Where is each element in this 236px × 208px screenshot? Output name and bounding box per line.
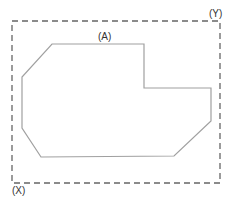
label-y: (Y): [209, 9, 222, 19]
diagram-canvas: [0, 0, 236, 208]
shape-outline-a: [22, 44, 211, 157]
label-a: (A): [98, 32, 111, 42]
label-x: (X): [12, 186, 25, 196]
dashed-boundary-rectangle: [12, 21, 220, 183]
